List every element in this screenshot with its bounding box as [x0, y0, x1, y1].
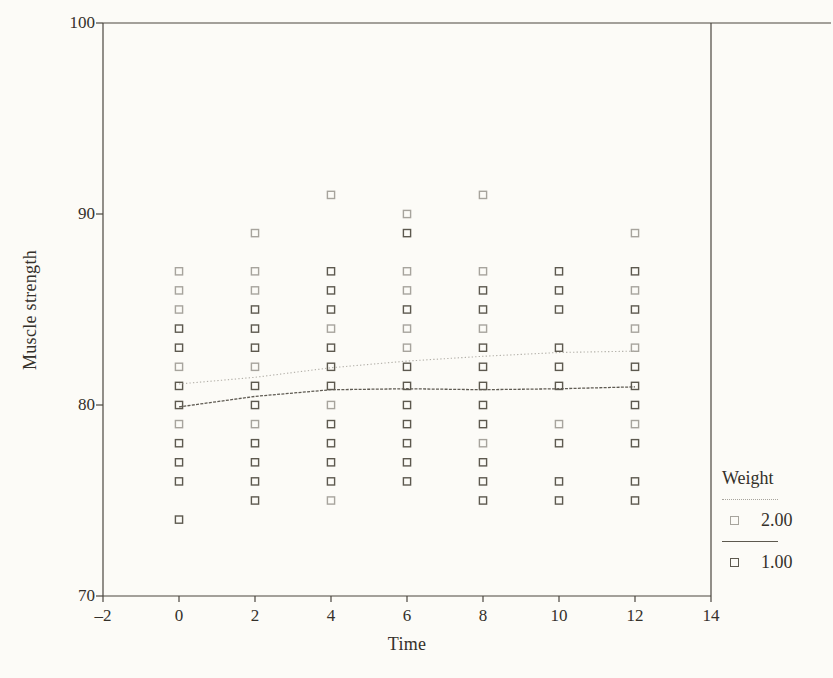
- data-point-marker-weight-1.00: [327, 459, 334, 466]
- y-tick-label: 90: [37, 204, 95, 224]
- data-point-marker-weight-1.00: [631, 478, 638, 485]
- data-point-marker-weight-2.00: [555, 421, 562, 428]
- data-point-marker-weight-1.00: [327, 344, 334, 351]
- legend-label-1.00: 1.00: [761, 552, 793, 573]
- data-point-marker-weight-2.00: [631, 344, 638, 351]
- data-point-marker-weight-1.00: [555, 440, 562, 447]
- data-point-marker-weight-1.00: [403, 440, 410, 447]
- data-point-marker-weight-2.00: [175, 363, 182, 370]
- data-point-marker-weight-1.00: [631, 401, 638, 408]
- x-tick-label: –2: [95, 606, 112, 626]
- x-tick-label: 10: [551, 606, 568, 626]
- data-point-marker-weight-2.00: [631, 325, 638, 332]
- data-point-marker-weight-2.00: [175, 306, 182, 313]
- data-point-marker-weight-1.00: [175, 478, 182, 485]
- data-point-marker-weight-1.00: [327, 306, 334, 313]
- data-point-marker-weight-1.00: [555, 306, 562, 313]
- data-point-marker-weight-1.00: [555, 344, 562, 351]
- data-point-marker-weight-1.00: [327, 287, 334, 294]
- data-point-marker-weight-1.00: [251, 325, 258, 332]
- data-point-marker-weight-2.00: [403, 287, 410, 294]
- y-tick-label: 80: [37, 395, 95, 415]
- data-point-marker-weight-2.00: [251, 363, 258, 370]
- y-axis-title: Muscle strength: [20, 210, 42, 410]
- y-tick-label: 100: [37, 13, 95, 33]
- data-point-marker-weight-1.00: [479, 287, 486, 294]
- data-point-marker-weight-1.00: [479, 421, 486, 428]
- x-tick-label: 6: [403, 606, 412, 626]
- data-point-marker-weight-2.00: [403, 210, 410, 217]
- data-point-marker-weight-2.00: [403, 325, 410, 332]
- x-tick-label: 0: [175, 606, 184, 626]
- data-point-marker-weight-2.00: [327, 401, 334, 408]
- data-point-marker-weight-1.00: [251, 478, 258, 485]
- legend-marker-swatch-2.00: [730, 516, 739, 525]
- x-tick-label: 4: [327, 606, 336, 626]
- data-point-marker-weight-1.00: [479, 459, 486, 466]
- data-point-marker-weight-1.00: [175, 459, 182, 466]
- data-point-marker-weight-1.00: [175, 440, 182, 447]
- plot-area: [0, 0, 833, 678]
- data-point-marker-weight-1.00: [403, 459, 410, 466]
- data-point-marker-weight-1.00: [175, 516, 182, 523]
- x-axis-title: Time: [103, 634, 711, 655]
- data-point-marker-weight-2.00: [251, 287, 258, 294]
- data-point-marker-weight-1.00: [327, 363, 334, 370]
- data-point-marker-weight-1.00: [631, 306, 638, 313]
- x-tick-label: 12: [627, 606, 644, 626]
- legend-line-swatch-1.00: [722, 541, 778, 542]
- x-tick-label: 2: [251, 606, 260, 626]
- data-point-marker-weight-1.00: [555, 497, 562, 504]
- data-point-marker-weight-1.00: [631, 382, 638, 389]
- data-point-marker-weight-1.00: [327, 268, 334, 275]
- data-point-marker-weight-1.00: [479, 382, 486, 389]
- data-point-marker-weight-1.00: [327, 421, 334, 428]
- legend-entry-weight-2: 2.00: [722, 499, 828, 531]
- data-point-marker-weight-1.00: [479, 363, 486, 370]
- data-point-marker-weight-1.00: [403, 230, 410, 237]
- data-point-marker-weight-2.00: [479, 325, 486, 332]
- data-point-marker-weight-1.00: [479, 497, 486, 504]
- data-point-marker-weight-1.00: [327, 478, 334, 485]
- chart-figure: –202468101214 708090100 Time Muscle stre…: [0, 0, 833, 678]
- legend-entry-weight-1: 1.00: [722, 541, 828, 573]
- data-point-marker-weight-1.00: [631, 268, 638, 275]
- x-tick-label: 8: [479, 606, 488, 626]
- data-point-marker-weight-1.00: [251, 440, 258, 447]
- data-point-marker-weight-1.00: [479, 306, 486, 313]
- legend-marker-swatch-1.00: [730, 558, 739, 567]
- data-point-marker-weight-1.00: [251, 497, 258, 504]
- data-point-marker-weight-2.00: [175, 421, 182, 428]
- data-point-marker-weight-2.00: [403, 268, 410, 275]
- data-point-marker-weight-1.00: [479, 401, 486, 408]
- fit-line-weight-2.00: [179, 351, 635, 384]
- data-point-marker-weight-2.00: [251, 230, 258, 237]
- data-point-marker-weight-1.00: [403, 478, 410, 485]
- data-point-marker-weight-2.00: [403, 344, 410, 351]
- data-point-marker-weight-1.00: [631, 497, 638, 504]
- data-point-marker-weight-2.00: [327, 497, 334, 504]
- data-point-marker-weight-2.00: [631, 421, 638, 428]
- data-point-marker-weight-1.00: [327, 440, 334, 447]
- data-point-marker-weight-1.00: [479, 344, 486, 351]
- data-point-marker-weight-1.00: [403, 421, 410, 428]
- data-point-marker-weight-1.00: [479, 478, 486, 485]
- data-point-marker-weight-2.00: [631, 230, 638, 237]
- y-tick-label: 70: [37, 586, 95, 606]
- data-point-marker-weight-1.00: [555, 268, 562, 275]
- data-point-marker-weight-1.00: [555, 287, 562, 294]
- data-point-marker-weight-1.00: [555, 478, 562, 485]
- legend-line-swatch-2.00: [722, 499, 778, 500]
- data-point-marker-weight-1.00: [327, 382, 334, 389]
- data-point-marker-weight-1.00: [403, 401, 410, 408]
- data-point-marker-weight-1.00: [251, 382, 258, 389]
- data-point-marker-weight-1.00: [251, 344, 258, 351]
- data-point-marker-weight-2.00: [479, 440, 486, 447]
- data-point-marker-weight-2.00: [327, 191, 334, 198]
- x-tick-label: 14: [703, 606, 720, 626]
- data-point-marker-weight-1.00: [175, 344, 182, 351]
- data-point-marker-weight-1.00: [175, 382, 182, 389]
- data-point-marker-weight-1.00: [631, 363, 638, 370]
- data-point-marker-weight-1.00: [251, 401, 258, 408]
- data-point-marker-weight-2.00: [251, 421, 258, 428]
